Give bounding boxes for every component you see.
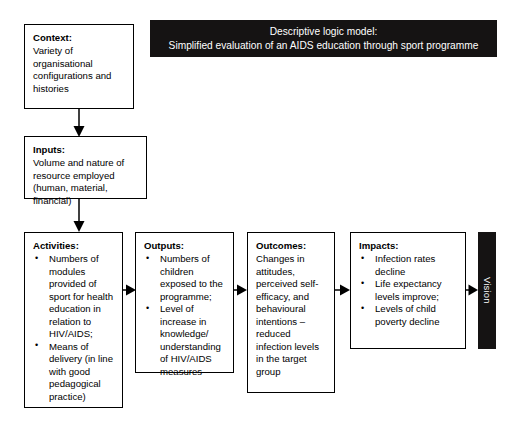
list-item-text: Level of increase in knowledge/ understa… — [160, 303, 221, 376]
list-item-text: Infection rates decline — [375, 253, 435, 276]
list-item-text: Life expectancy levels improve; — [375, 278, 442, 301]
node-inputs-body: Volume and nature of resource employed (… — [33, 157, 140, 207]
arrow-outcomes-to-impacts — [334, 283, 351, 297]
node-impacts: Impacts: • Infection rates decline • Lif… — [350, 232, 466, 349]
arrow-impacts-to-vision — [465, 283, 479, 297]
list-item: • Infection rates decline — [359, 253, 459, 278]
node-outcomes-heading: Outcomes: — [256, 240, 328, 252]
list-item: • Levels of child poverty decline — [359, 303, 459, 328]
node-context: Context: Variety of organisational confi… — [24, 24, 134, 109]
bullet-glyph: • — [35, 253, 38, 265]
node-activities-heading: Activities: — [33, 240, 116, 252]
arrow-inputs-to-activities — [72, 199, 86, 233]
list-item-text: Numbers of modules provided of sport for… — [49, 253, 113, 339]
list-item: • Numbers of modules provided of sport f… — [33, 253, 116, 340]
bullet-glyph: • — [361, 253, 364, 265]
node-impacts-heading: Impacts: — [359, 240, 459, 252]
node-outputs-heading: Outputs: — [144, 240, 227, 252]
node-vision-label: Vision — [482, 277, 493, 304]
list-item-text: Numbers of children exposed to the progr… — [160, 253, 223, 301]
node-context-heading: Context: — [33, 32, 127, 44]
bullet-glyph: • — [361, 278, 364, 290]
diagram-title-line-2: Simplified evaluation of an AIDS educati… — [169, 39, 479, 52]
list-item: • Life expectancy levels improve; — [359, 278, 459, 303]
node-impacts-list: • Infection rates decline • Life expecta… — [359, 253, 459, 328]
arrow-outputs-to-outcomes — [233, 283, 248, 297]
node-outputs-list: • Numbers of children exposed to the pro… — [144, 253, 227, 378]
node-context-body: Variety of organisational configurations… — [33, 45, 127, 95]
bullet-glyph: • — [361, 303, 364, 315]
node-inputs: Inputs: Volume and nature of resource em… — [24, 136, 147, 199]
node-activities: Activities: • Numbers of modules provide… — [24, 232, 123, 408]
logic-model-diagram: Descriptive logic model: Simplified eval… — [0, 0, 512, 438]
bullet-glyph: • — [146, 303, 149, 315]
arrow-activities-to-outputs — [122, 283, 137, 297]
node-outputs: Outputs: • Numbers of children exposed t… — [135, 232, 234, 373]
node-outcomes: Outcomes: Changes in attitudes, perceive… — [247, 232, 335, 393]
list-item: • Numbers of children exposed to the pro… — [144, 253, 227, 303]
arrow-context-to-inputs — [72, 108, 86, 138]
diagram-title-banner: Descriptive logic model: Simplified eval… — [150, 20, 497, 57]
list-item-text: Levels of child poverty decline — [375, 303, 440, 326]
node-activities-list: • Numbers of modules provided of sport f… — [33, 253, 116, 403]
diagram-title-line-1: Descriptive logic model: — [270, 25, 378, 38]
node-inputs-heading: Inputs: — [33, 144, 140, 156]
bullet-glyph: • — [146, 253, 149, 265]
node-outcomes-body: Changes in attitudes, perceived self-eff… — [256, 253, 328, 378]
list-item: • Means of delivery (in line with good p… — [33, 341, 116, 403]
list-item-text: Means of delivery (in line with good ped… — [49, 341, 113, 402]
node-vision: Vision — [478, 232, 496, 349]
list-item: • Level of increase in knowledge/ unders… — [144, 303, 227, 378]
bullet-glyph: • — [35, 340, 38, 352]
